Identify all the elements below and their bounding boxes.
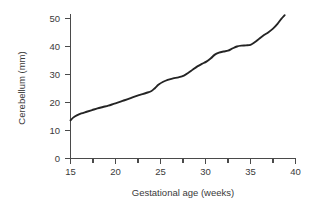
chart-figure: 0 10 20 30 40 50 15 20 25: [0, 0, 318, 212]
x-axis-tick-labels: 15 20 25 30 35 40: [65, 166, 301, 177]
x-tick-label-20: 20: [110, 166, 121, 177]
x-axis-minor-ticks: [93, 159, 273, 163]
x-tick-label-30: 30: [200, 166, 211, 177]
y-tick-label-10: 10: [49, 125, 60, 136]
x-tick-label-40: 40: [290, 166, 301, 177]
x-axis-title: Gestational age (weeks): [132, 187, 234, 198]
x-tick-label-15: 15: [65, 166, 76, 177]
y-tick-label-0: 0: [55, 153, 60, 164]
y-tick-label-40: 40: [49, 41, 60, 52]
cerebellum-growth-curve: [71, 15, 285, 120]
y-axis-ticks: [65, 19, 71, 159]
y-axis-tick-labels: 0 10 20 30 40 50: [49, 13, 60, 164]
y-tick-label-20: 20: [49, 97, 60, 108]
y-axis-title: Cerebellum (mm): [16, 51, 27, 124]
y-tick-label-50: 50: [49, 13, 60, 24]
x-tick-label-25: 25: [155, 166, 166, 177]
x-tick-label-35: 35: [245, 166, 256, 177]
cerebellum-growth-chart: 0 10 20 30 40 50 15 20 25: [0, 0, 318, 212]
y-tick-label-30: 30: [49, 69, 60, 80]
